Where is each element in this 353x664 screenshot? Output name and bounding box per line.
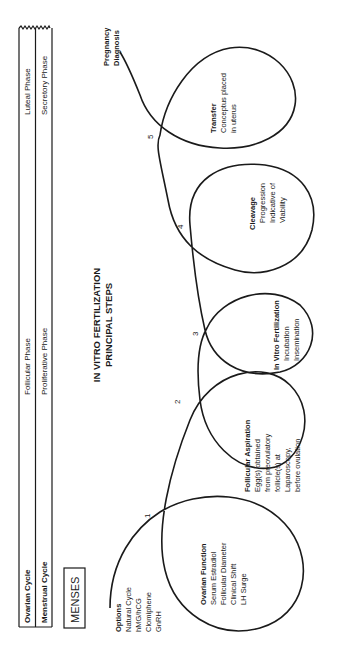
diagram-title: IN VITRO FERTILIZATION PRINCIPAL STEPS (91, 268, 114, 382)
pregnancy-diagnosis-label: Pregnancy Diagnosis (102, 27, 121, 66)
step-cleavage: Cleavage Progression Indicative of Viabi… (248, 182, 287, 230)
step-in-vitro-fertilization: In Vitro Fertilization Incubation Insemi… (272, 300, 301, 370)
phase-follicular: Follicular Phase (23, 338, 32, 395)
menses-box: MENSES (64, 568, 85, 628)
step-title: Transfer (209, 103, 218, 133)
step-line: before ovulation (293, 439, 302, 492)
option-item: Clomiphene (144, 592, 153, 632)
step-line: Serum Estradiol (209, 551, 218, 605)
phase-luteal: Luteal Phase (23, 68, 32, 115)
option-item: hMG/hCG (134, 598, 143, 632)
end-label-line-2: Diagnosis (112, 30, 121, 66)
end-label-line-1: Pregnancy (102, 27, 111, 66)
table-wavy-edge (19, 26, 50, 29)
row-label-ovarian-cycle: Ovarian Cycle (23, 569, 32, 623)
step-line: Laparoscopy, (283, 448, 292, 492)
step-number-5: 5 (146, 134, 155, 139)
step-ovarian-function: Ovarian Function Serum Estradiol Follicu… (199, 542, 248, 605)
step-line: Clinical Shift (229, 563, 238, 605)
menses-label: MENSES (69, 577, 81, 623)
option-item: GnRH (154, 611, 163, 632)
phase-proliferative: Proliferative Phase (40, 327, 49, 395)
step-number-4: 4 (176, 224, 185, 229)
step-number-1: 1 (143, 513, 152, 518)
step-line: Progression (258, 183, 267, 223)
step-line: in uterus (229, 104, 238, 133)
step-title: In Vitro Fertilization (272, 300, 281, 370)
step-line: follicle(s) at (273, 453, 282, 492)
options-list: Options Natural Cycle hMG/hCG Clomiphene… (114, 587, 163, 632)
row-label-menstrual-cycle: Menstrual Cycle (40, 561, 49, 623)
step-follicular-aspiration: Follicular Aspiration Egg(s) obtained fr… (243, 419, 302, 492)
step-line: Follicular Diameter (219, 542, 228, 605)
option-item: Natural Cycle (124, 587, 133, 632)
step-line: Conceptus placed (219, 73, 228, 133)
step-line: Egg(s) obtained (253, 439, 262, 492)
step-line: Indicative of (268, 182, 277, 223)
step-line: from preovulatory (263, 433, 272, 492)
step-title: Follicular Aspiration (243, 419, 252, 492)
title-line-1: IN VITRO FERTILIZATION (91, 268, 102, 382)
step-number-2: 2 (173, 399, 182, 404)
step-line: Viability (278, 197, 287, 223)
phase-secretory: Secretory Phase (40, 55, 49, 115)
title-line-2: PRINCIPAL STEPS (103, 283, 114, 367)
step-transfer: Transfer Conceptus placed in uterus (209, 73, 238, 133)
step-number-3: 3 (191, 331, 200, 336)
step-line: Incubation (282, 326, 291, 361)
step-line: Insemination (292, 318, 301, 361)
step-title: Cleavage (248, 197, 257, 230)
options-heading: Options (114, 604, 123, 632)
ivf-diagram: Ovarian Cycle Follicular Phase Luteal Ph… (0, 0, 353, 664)
cycle-table: Ovarian Cycle Follicular Phase Luteal Ph… (19, 26, 52, 627)
step-line: LH Surge (239, 573, 248, 605)
step-title: Ovarian Function (199, 543, 208, 605)
